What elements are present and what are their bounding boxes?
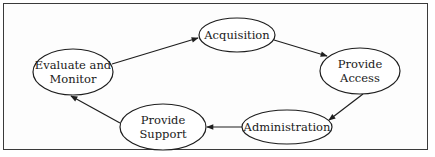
node-label-line: Evaluate and [35,58,111,72]
node-label-line: Monitor [35,72,111,86]
node-label-line: Provide [338,57,383,71]
node-label-administration: Administration [244,120,331,134]
node-label-line: Administration [244,120,331,134]
node-label-evaluate-and-monitor: Evaluate and Monitor [35,58,111,86]
edge-acquisition-to-access [274,40,327,56]
node-label-provide-support: Provide Support [139,113,186,141]
node-label-acquisition: Acquisition [204,28,269,42]
node-label-line: Provide [139,113,186,127]
edge-evaluate-to-acquisition [112,38,198,64]
edge-access-to-administration [329,94,363,120]
edge-support-to-evaluate [71,96,120,123]
node-label-line: Acquisition [204,28,269,42]
node-label-line: Support [139,127,186,141]
node-label-line: Access [338,71,383,85]
node-label-provide-access: Provide Access [338,57,383,85]
